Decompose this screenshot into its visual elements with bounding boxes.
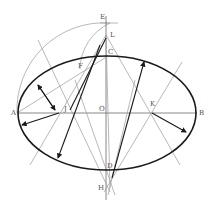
arrow-radius-h-upper-right (112, 62, 144, 178)
label-o: O (99, 105, 105, 113)
line-l-j-h (30, 35, 106, 165)
arrow-radius-j-left (22, 113, 59, 125)
label-a: A (10, 109, 17, 117)
ellipse-construction-diagram: E L C F A J O K B D H (0, 0, 208, 212)
arc-e-to-f (80, 23, 110, 69)
label-l: L (110, 31, 115, 39)
label-b: B (199, 109, 204, 117)
label-f: F (78, 62, 83, 70)
label-e: E (100, 13, 105, 21)
label-h: H (98, 184, 104, 192)
arc-radius-oa (17, 23, 110, 113)
arrow-radius-l-f (70, 38, 106, 110)
label-d: D (107, 162, 113, 170)
label-c: C (108, 48, 113, 56)
arrow-radius-left-upper-rev (38, 85, 55, 110)
label-k: K (150, 100, 156, 108)
arrow-radius-k-right (152, 113, 186, 132)
line-l-k (106, 35, 180, 165)
label-j: J (63, 105, 67, 113)
line-h-up-right (104, 62, 182, 192)
